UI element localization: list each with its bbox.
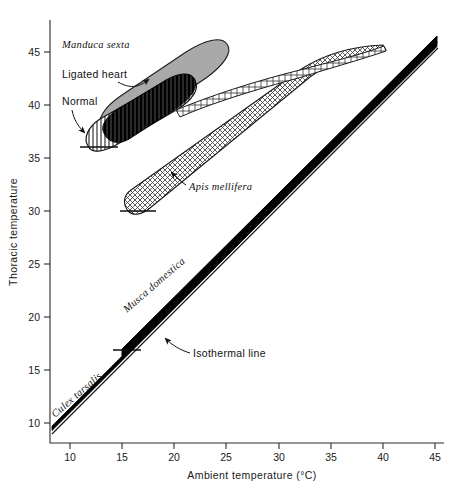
x-axis-title: Ambient temperature (°C) <box>187 469 316 481</box>
data-layer <box>52 36 438 434</box>
culex-band <box>52 42 437 431</box>
label-ligated-heart: Ligated heart <box>62 68 127 80</box>
label-isothermal-line: Isothermal line <box>193 347 266 359</box>
x-tick-label: 25 <box>220 451 232 463</box>
y-axis-title: Thoracic temperature <box>7 178 19 286</box>
y-tick-label: 20 <box>28 311 40 323</box>
y-tick-label: 25 <box>28 258 40 270</box>
label-normal: Normal <box>62 95 98 107</box>
y-tick-label: 35 <box>28 152 40 164</box>
isothermal-leader <box>166 339 190 353</box>
normal-leader <box>72 110 84 132</box>
y-tick-label: 30 <box>28 205 40 217</box>
x-tick-label: 40 <box>377 451 389 463</box>
y-tick-labels: 10 15 20 25 30 35 40 45 <box>28 46 40 429</box>
label-apis-mellifera: Apis mellifera <box>188 181 252 192</box>
label-manduca-sexta: Manduca sexta <box>61 39 130 50</box>
x-tick-labels: 10 15 20 25 30 35 40 45 <box>64 451 441 463</box>
series-culex-tarsalis <box>52 42 437 431</box>
x-tick-label: 30 <box>273 451 285 463</box>
label-culex-tarsalis: Culex tarsalis <box>49 370 104 420</box>
y-tick-label: 10 <box>28 417 40 429</box>
y-tick-marks <box>44 52 50 423</box>
x-tick-label: 20 <box>168 451 180 463</box>
y-tick-label: 45 <box>28 46 40 58</box>
x-tick-label: 35 <box>325 451 337 463</box>
y-tick-label: 15 <box>28 364 40 376</box>
x-tick-label: 10 <box>64 451 76 463</box>
x-tick-marks <box>70 443 435 449</box>
x-tick-label: 15 <box>116 451 128 463</box>
x-tick-label: 45 <box>429 451 441 463</box>
thermoregulation-chart-figure: 10 15 20 25 30 35 40 45 10 <box>0 0 450 484</box>
chart-svg: 10 15 20 25 30 35 40 45 10 <box>0 0 450 484</box>
y-tick-label: 40 <box>28 99 40 111</box>
